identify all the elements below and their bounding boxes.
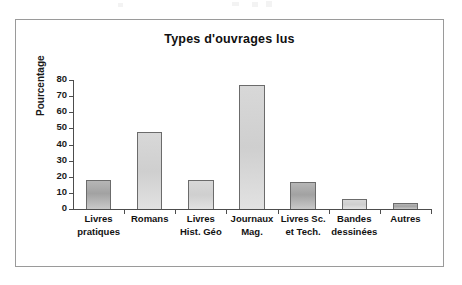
bar bbox=[86, 180, 112, 209]
y-tick-label: 10 bbox=[45, 186, 67, 197]
x-tick-label: Livres pratiques bbox=[73, 213, 124, 238]
x-tick-label: Romans bbox=[124, 213, 175, 226]
y-tick-mark bbox=[69, 112, 73, 113]
x-tick-mark bbox=[431, 209, 432, 214]
y-tick-label: 80 bbox=[45, 73, 67, 84]
y-tick-mark bbox=[69, 96, 73, 97]
y-tick-mark bbox=[69, 128, 73, 129]
bar bbox=[188, 180, 214, 209]
bar bbox=[239, 85, 265, 209]
chart-title: Types d'ouvrages lus bbox=[16, 32, 443, 46]
y-tick-mark bbox=[69, 161, 73, 162]
y-tick-mark bbox=[69, 177, 73, 178]
scan-artifact bbox=[252, 2, 258, 7]
x-tick-label: Journaux Mag. bbox=[226, 213, 277, 238]
bar bbox=[290, 182, 316, 209]
y-tick-label: 40 bbox=[45, 138, 67, 149]
y-tick-label: 50 bbox=[45, 121, 67, 132]
scan-artifact bbox=[232, 2, 239, 6]
y-tick-label: 20 bbox=[45, 170, 67, 181]
y-tick-label: 60 bbox=[45, 105, 67, 116]
y-tick-label: 0 bbox=[45, 202, 67, 213]
y-tick-label: 70 bbox=[45, 89, 67, 100]
y-tick-mark bbox=[69, 145, 73, 146]
x-tick-label: Bandes dessinées bbox=[329, 213, 380, 238]
plot-area: 80706050403020100 Livres pratiquesRomans… bbox=[73, 80, 431, 209]
y-axis-line bbox=[73, 80, 74, 209]
x-axis-line bbox=[73, 209, 431, 210]
y-tick-label: 30 bbox=[45, 154, 67, 165]
y-tick-mark bbox=[69, 209, 73, 210]
scan-artifact bbox=[266, 1, 272, 7]
chart-screenshot: Types d'ouvrages lus Pourcentage 8070605… bbox=[0, 0, 462, 285]
y-tick-mark bbox=[69, 80, 73, 81]
figure-frame: Types d'ouvrages lus Pourcentage 8070605… bbox=[15, 19, 444, 267]
x-tick-label: Livres Hist. Géo bbox=[175, 213, 226, 238]
x-tick-label: Livres Sc. et Tech. bbox=[278, 213, 329, 238]
bar bbox=[393, 203, 419, 209]
x-tick-label: Autres bbox=[380, 213, 431, 226]
scan-artifact bbox=[118, 3, 123, 7]
bar bbox=[342, 199, 368, 209]
y-tick-mark bbox=[69, 193, 73, 194]
bar bbox=[137, 132, 163, 209]
